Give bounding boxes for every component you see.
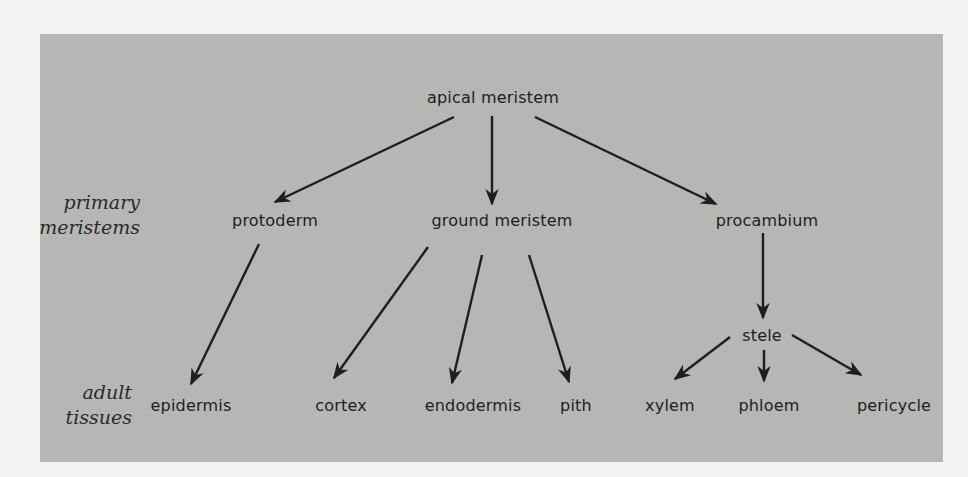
arrow-ground-to-pith: [529, 255, 569, 382]
node-pith: pith: [560, 396, 592, 415]
arrow-apical-to-protoderm: [275, 117, 454, 202]
node-protoderm: protoderm: [232, 211, 318, 230]
arrow-protoderm-to-epidermis: [191, 244, 259, 384]
node-stele: stele: [742, 326, 782, 345]
arrow-apical-to-procambium: [535, 117, 716, 204]
arrow-stele-to-xylem: [675, 337, 730, 379]
row-label-primary: primary: [20, 190, 140, 215]
node-pericycle: pericycle: [857, 396, 931, 415]
node-epidermis: epidermis: [151, 396, 232, 415]
node-apical-meristem: apical meristem: [427, 88, 559, 107]
node-xylem: xylem: [645, 396, 695, 415]
arrow-ground-to-cortex: [334, 247, 428, 378]
arrow-ground-to-endodermis: [452, 255, 482, 383]
row-label-adult-tissues: adult tissues: [12, 380, 132, 430]
arrow-stele-to-pericycle: [792, 335, 861, 375]
row-label-primary-meristems: primary meristems: [20, 190, 140, 240]
node-phloem: phloem: [738, 396, 799, 415]
node-procambium: procambium: [716, 211, 819, 230]
node-ground-meristem: ground meristem: [431, 211, 572, 230]
row-label-tissues: tissues: [12, 405, 132, 430]
row-label-adult: adult: [12, 380, 132, 405]
row-label-meristems: meristems: [20, 215, 140, 240]
node-endodermis: endodermis: [425, 396, 522, 415]
node-cortex: cortex: [315, 396, 367, 415]
